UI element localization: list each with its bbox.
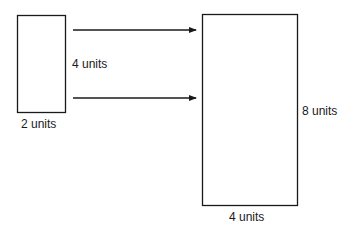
small-rectangle [18,16,66,113]
diagram-shapes [0,0,353,231]
large-rectangle-height-label: 8 units [302,104,337,118]
small-rectangle-width-label: 2 units [21,117,56,131]
large-rectangle-width-label: 4 units [229,210,264,224]
scaling-diagram: 4 units 2 units 8 units 4 units [0,0,353,231]
large-rectangle [203,15,298,206]
small-rectangle-height-label: 4 units [72,57,107,71]
